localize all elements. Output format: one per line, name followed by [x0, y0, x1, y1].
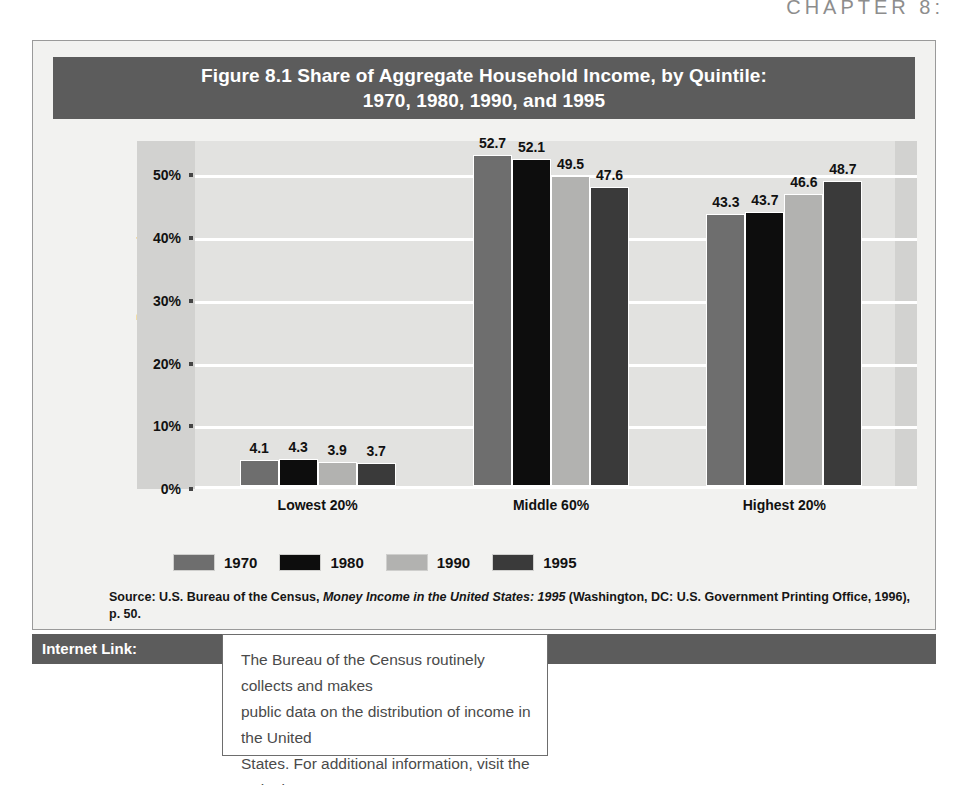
- y-tick-mark: [189, 424, 193, 428]
- bar-slot: 49.5: [551, 141, 590, 486]
- bar-slot: 52.1: [512, 141, 551, 486]
- legend-label: 1970: [224, 554, 257, 571]
- y-tick-label: 10%: [95, 418, 181, 434]
- y-tick-mark: [189, 173, 193, 177]
- chart-area: Percentage share 4.14.33.93.752.752.149.…: [103, 141, 917, 536]
- bar-slot: 52.7: [473, 141, 512, 486]
- bar-slot: 3.9: [318, 141, 357, 486]
- y-tick-label: 20%: [95, 356, 181, 372]
- y-tick-label: 0%: [95, 481, 181, 497]
- bar[interactable]: [745, 212, 784, 486]
- figure-title-line-2: 1970, 1980, 1990, and 1995: [363, 88, 605, 113]
- category-label: Middle 60%: [473, 497, 629, 513]
- y-tick-mark: [189, 487, 193, 491]
- bar[interactable]: [590, 187, 629, 486]
- legend-item[interactable]: 1970: [173, 554, 257, 571]
- bar[interactable]: [473, 155, 512, 486]
- internet-link-label: Internet Link:: [42, 640, 137, 657]
- bar-slot: 48.7: [823, 141, 862, 486]
- legend-swatch: [279, 554, 321, 571]
- legend-item[interactable]: 1995: [492, 554, 576, 571]
- bar[interactable]: [551, 176, 590, 487]
- figure-title-band: Figure 8.1 Share of Aggregate Household …: [53, 57, 915, 119]
- category-label: Lowest 20%: [240, 497, 396, 513]
- legend-label: 1980: [330, 554, 363, 571]
- x-axis-baseline: [195, 486, 917, 489]
- y-tick-label: 50%: [95, 167, 181, 183]
- legend-swatch: [173, 554, 215, 571]
- internet-link-line-2: public data on the distribution of incom…: [241, 699, 533, 751]
- bar[interactable]: [318, 462, 357, 486]
- bar-group: 52.752.149.547.6: [473, 141, 629, 486]
- category-label: Highest 20%: [706, 497, 862, 513]
- source-prefix: Source: U.S. Bureau of the Census,: [109, 590, 323, 604]
- legend-swatch: [386, 554, 428, 571]
- plot-right-margin: [895, 141, 917, 489]
- bar-slot: 3.7: [357, 141, 396, 486]
- bar-value-label: 47.6: [580, 167, 639, 183]
- legend-label: 1990: [437, 554, 470, 571]
- y-tick-mark: [189, 362, 193, 366]
- bar[interactable]: [706, 214, 745, 486]
- y-tick-label: 30%: [95, 293, 181, 309]
- bar[interactable]: [240, 460, 279, 486]
- internet-link-box: The Bureau of the Census routinely colle…: [222, 634, 548, 756]
- bar-slot: 4.3: [279, 141, 318, 486]
- figure-container: Figure 8.1 Share of Aggregate Household …: [32, 40, 936, 630]
- source-title-italic: Money Income in the United States: 1995: [323, 590, 565, 604]
- bar-value-label: 3.7: [347, 443, 406, 459]
- internet-link-line-1: The Bureau of the Census routinely colle…: [241, 647, 533, 699]
- bar[interactable]: [357, 463, 396, 486]
- bar-group: 4.14.33.93.7: [240, 141, 396, 486]
- legend-swatch: [492, 554, 534, 571]
- y-tick-label: 40%: [95, 230, 181, 246]
- running-head: CHAPTER 8:: [786, 0, 944, 19]
- bar-slot: 43.7: [745, 141, 784, 486]
- chart-legend: 1970198019901995: [173, 554, 577, 571]
- bar-slot: 46.6: [784, 141, 823, 486]
- y-tick-mark: [189, 236, 193, 240]
- legend-label: 1995: [543, 554, 576, 571]
- bar[interactable]: [823, 181, 862, 486]
- legend-item[interactable]: 1990: [386, 554, 470, 571]
- bar-group: 43.343.746.648.7: [706, 141, 862, 486]
- y-axis-band: [137, 141, 195, 489]
- plot-region: 4.14.33.93.752.752.149.547.643.343.746.6…: [195, 141, 917, 489]
- y-tick-mark: [189, 299, 193, 303]
- bar[interactable]: [784, 194, 823, 486]
- legend-item[interactable]: 1980: [279, 554, 363, 571]
- bar[interactable]: [512, 159, 551, 486]
- figure-source-note: Source: U.S. Bureau of the Census, Money…: [109, 589, 921, 623]
- bar[interactable]: [279, 459, 318, 486]
- bar-value-label: 48.7: [813, 161, 872, 177]
- bar-slot: 47.6: [590, 141, 629, 486]
- bar-slot: 4.1: [240, 141, 279, 486]
- figure-title-line-1: Figure 8.1 Share of Aggregate Household …: [201, 63, 767, 88]
- internet-link-line-3: States. For additional information, visi…: [241, 751, 533, 785]
